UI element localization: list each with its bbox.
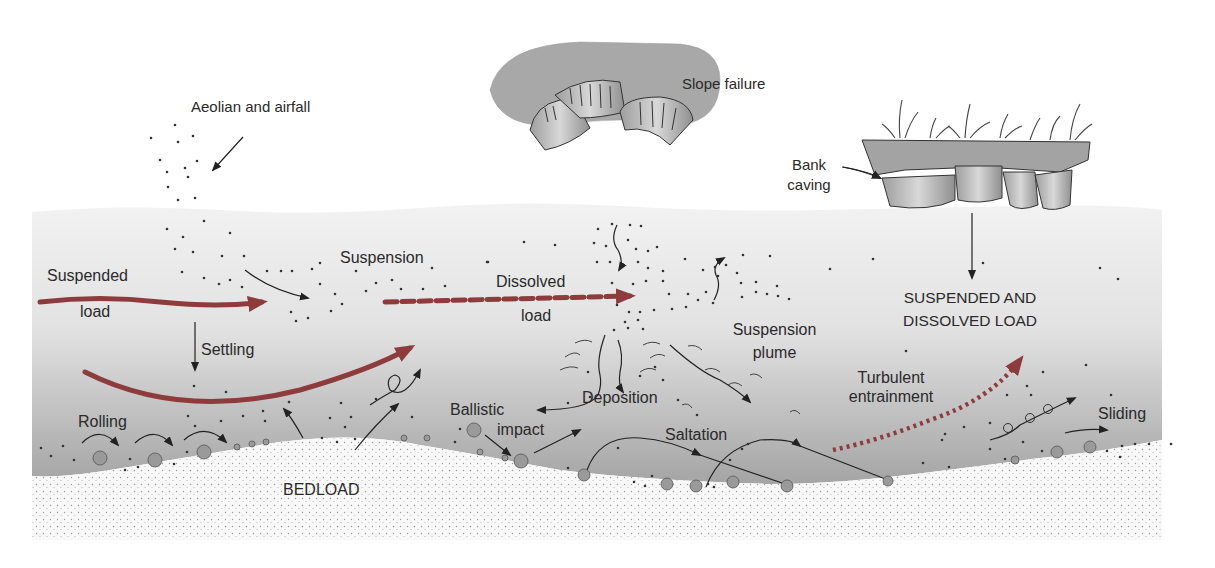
label-suspended-load-2: load [80,302,110,322]
label-ballistic-impact: Ballistic impact [450,400,544,440]
label-turbulent-line2: entrainment [836,387,946,406]
label-ballistic-line2: impact [450,420,544,440]
label-turbulent-entrainment: Turbulent entrainment [836,368,946,406]
label-bank-caving-line1: Bank [783,155,835,175]
label-ballistic-line1: Ballistic [450,400,544,420]
label-settling: Settling [201,340,254,360]
label-dissolved-load-2: load [521,306,551,326]
label-deposition: Deposition [582,388,658,408]
label-saltation: Saltation [665,425,727,445]
label-sdl-line2: DISSOLVED LOAD [880,309,1060,332]
label-aeolian-and-airfall: Aeolian and airfall [191,97,310,117]
label-suspension-plume-line1: Suspension [727,318,822,341]
label-suspended-load-1: Suspended [47,266,128,286]
label-suspended-and-dissolved-load: SUSPENDED AND DISSOLVED LOAD [880,286,1060,332]
label-bank-caving: Bank caving [783,155,835,195]
label-suspension-plume: Suspension plume [727,318,822,364]
bank-caving-illustration [862,100,1092,209]
sediment-transport-diagram [0,0,1215,568]
label-dissolved-load-1: Dissolved [496,272,565,292]
label-turbulent-line1: Turbulent [836,368,946,387]
label-bedload: BEDLOAD [283,480,359,500]
slope-failure-illustration [490,42,720,150]
label-suspension-plume-line2: plume [727,341,822,364]
label-slope-failure: Slope failure [682,74,765,94]
label-bank-caving-line2: caving [783,175,835,195]
label-rolling: Rolling [78,412,127,432]
label-suspension: Suspension [340,248,424,268]
label-sdl-line1: SUSPENDED AND [880,286,1060,309]
label-sliding: Sliding [1098,404,1146,424]
